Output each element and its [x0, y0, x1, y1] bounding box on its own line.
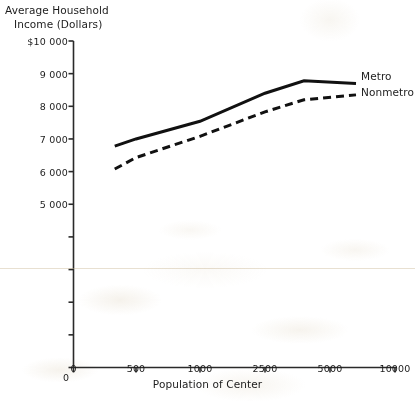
y-axis-tick-label: 8 000 [6, 101, 68, 112]
x-axis-tick-label: 10000 [379, 363, 410, 374]
line-chart: Average HouseholdIncome (Dollars) $10 00… [0, 0, 415, 401]
series-lines [115, 81, 356, 169]
x-axis-tick-label: 500 [127, 363, 146, 374]
y-axis-tick-label: 7 000 [6, 133, 68, 144]
y-axis-tick-labels: $10 0009 0008 0007 0006 0005 0000 [4, 0, 68, 401]
axis-lines [73, 41, 397, 368]
x-axis-tick-labels: 050010002500500010000 [0, 363, 415, 379]
x-axis-tick-label: 2500 [253, 363, 278, 374]
y-axis-tick-label: 6 000 [6, 166, 68, 177]
y-axis-tick-label: $10 000 [6, 36, 68, 47]
x-axis-title: Population of Center [0, 378, 415, 390]
y-axis-tick-label: 9 000 [6, 68, 68, 79]
x-axis-tick-label: 0 [70, 363, 76, 374]
x-axis-tick-label: 1000 [188, 363, 213, 374]
series-line-metro [115, 81, 356, 146]
series-label-metro: Metro [361, 70, 392, 82]
series-label-nonmetro: Nonmetro [361, 86, 414, 98]
y-axis-tick-label: 5 000 [6, 199, 68, 210]
x-axis-tick-label: 5000 [318, 363, 343, 374]
